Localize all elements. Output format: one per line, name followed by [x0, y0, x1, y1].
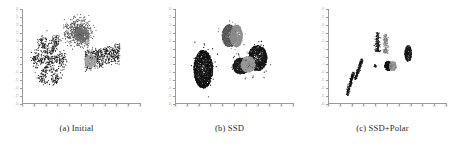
y-tick-label-b-2: -20: [168, 87, 171, 90]
scatter-canvas-b: [175, 9, 293, 104]
x-tick-label-c-1: -40: [338, 105, 341, 108]
scatter-series-b-blob-left-black: [191, 42, 218, 98]
x-tick-label-c-4: -10: [373, 105, 376, 108]
y-tick-label-a-9: 15: [16, 31, 19, 34]
y-tick-label-a-4: -10: [15, 71, 18, 74]
scatter-series-c-patch-right-black: [404, 45, 412, 62]
x-tick-label-b-5: 0: [233, 105, 234, 108]
x-tick-label-b-6: 10: [244, 105, 247, 108]
y-tick-label-b-8: 10: [169, 39, 172, 42]
x-tick-label-a-4: -10: [67, 105, 70, 108]
y-tick-label-b-5: -5: [169, 63, 171, 66]
x-tick-label-b-1: -40: [185, 105, 188, 108]
scatter-series-a-cluster-1-black: [30, 30, 67, 86]
x-tick-label-b-4: -10: [220, 105, 223, 108]
x-tick-label-a-10: 50: [139, 105, 142, 108]
y-tick-label-b-12: 30: [169, 8, 172, 11]
panel-b: -30-25-20-15-10-5051015202530-50-40-30-2…: [153, 0, 306, 155]
x-tick-label-c-6: 10: [397, 105, 400, 108]
x-tick-label-b-10: 50: [292, 105, 295, 108]
y-tick-label-c-6: 0: [323, 55, 324, 58]
y-tick-label-a-5: -5: [16, 63, 18, 66]
x-tick-label-b-8: 30: [268, 105, 271, 108]
y-tick-label-c-0: -30: [321, 103, 324, 106]
y-tick-label-a-3: -15: [15, 79, 18, 82]
y-tick-label-a-12: 30: [16, 8, 19, 11]
x-tick-label-a-9: 40: [127, 105, 130, 108]
x-tick-label-c-9: 40: [433, 105, 436, 108]
x-tick-label-b-2: -30: [197, 105, 200, 108]
scatter-series-c-sliver-left: [354, 59, 364, 80]
x-tick-label-c-8: 30: [421, 105, 424, 108]
panel-caption-b: (b) SSD: [153, 123, 306, 133]
panel-caption-a: (a) Initial: [0, 123, 153, 133]
y-tick-label-c-4: -10: [321, 71, 324, 74]
x-tick-label-b-0: -50: [173, 105, 176, 108]
y-tick-label-c-1: -25: [321, 95, 324, 98]
panel-a: -30-25-20-15-10-5051015202530-50-40-30-2…: [0, 0, 153, 155]
plot-area-b: -30-25-20-15-10-5051015202530-50-40-30-2…: [175, 9, 293, 104]
y-tick-label-b-7: 5: [170, 47, 171, 50]
y-tick-label-a-1: -25: [15, 95, 18, 98]
scatter-canvas-a: [22, 9, 140, 104]
y-tick-label-a-11: 25: [16, 15, 19, 18]
y-tick-label-a-6: 0: [17, 55, 18, 58]
y-tick-label-b-0: -30: [168, 103, 171, 106]
plot-area-c: -30-25-20-15-10-5051015202530-50-40-30-2…: [328, 9, 446, 104]
y-tick-label-b-10: 20: [169, 23, 172, 26]
y-tick-label-b-11: 25: [169, 15, 172, 18]
x-tick-label-a-1: -40: [32, 105, 35, 108]
scatter-series-c-sliver-far-left: [346, 72, 355, 96]
x-tick-label-b-3: -20: [209, 105, 212, 108]
y-tick-label-a-0: -30: [15, 103, 18, 106]
x-tick-label-a-6: 10: [91, 105, 94, 108]
x-tick-label-c-10: 50: [445, 105, 448, 108]
scatter-series-c-sliver-upper-mid: [373, 32, 381, 52]
x-tick-label-a-2: -30: [44, 105, 47, 108]
x-tick-label-b-9: 40: [280, 105, 283, 108]
x-tick-label-c-5: 0: [386, 105, 387, 108]
x-tick-label-a-3: -20: [56, 105, 59, 108]
y-tick-label-c-5: -5: [322, 63, 324, 66]
x-tick-label-a-7: 20: [103, 105, 106, 108]
x-tick-label-a-8: 30: [115, 105, 118, 108]
x-tick-label-c-7: 20: [409, 105, 412, 108]
y-tick-label-b-4: -10: [168, 71, 171, 74]
y-tick-label-c-11: 25: [322, 15, 325, 18]
y-tick-label-c-8: 10: [322, 39, 325, 42]
panel-caption-c: (c) SSD+Polar: [306, 123, 459, 133]
x-tick-label-a-0: -50: [20, 105, 23, 108]
scatter-canvas-c: [328, 9, 446, 104]
x-tick-label-c-0: -50: [326, 105, 329, 108]
y-tick-label-c-2: -20: [321, 87, 324, 90]
x-tick-label-b-7: 20: [256, 105, 259, 108]
plot-area-a: -30-25-20-15-10-5051015202530-50-40-30-2…: [22, 9, 140, 104]
y-tick-label-c-12: 30: [322, 8, 325, 11]
figure-scatter-comparison: -30-25-20-15-10-5051015202530-50-40-30-2…: [0, 0, 461, 155]
x-tick-label-c-2: -30: [350, 105, 353, 108]
x-tick-label-a-5: 0: [80, 105, 81, 108]
y-tick-label-b-3: -15: [168, 79, 171, 82]
scatter-series-c-dot-center: [374, 64, 377, 68]
y-tick-label-b-9: 15: [169, 31, 172, 34]
y-tick-label-c-9: 15: [322, 31, 325, 34]
y-tick-label-a-7: 5: [17, 47, 18, 50]
y-tick-label-a-8: 10: [16, 39, 19, 42]
panel-c: -30-25-20-15-10-5051015202530-50-40-30-2…: [306, 0, 459, 155]
y-tick-label-c-3: -15: [321, 79, 324, 82]
y-tick-label-c-10: 20: [322, 23, 325, 26]
y-tick-label-a-2: -20: [15, 87, 18, 90]
x-tick-label-c-3: -20: [362, 105, 365, 108]
y-tick-label-c-7: 5: [323, 47, 324, 50]
y-tick-label-a-10: 20: [16, 23, 19, 26]
y-tick-label-b-6: 0: [170, 55, 171, 58]
scatter-series-c-sliver-upper-gray: [382, 34, 389, 54]
y-tick-label-b-1: -25: [168, 95, 171, 98]
